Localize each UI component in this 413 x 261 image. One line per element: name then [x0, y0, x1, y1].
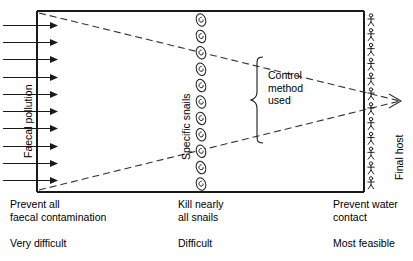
stick-figure-person-icon [368, 88, 374, 100]
stick-figure-person-icon [368, 58, 374, 70]
feasibility-most-feasible: Most feasible [333, 237, 395, 250]
stage-label-faecal-pollution: Faecal pollution [22, 84, 34, 158]
stick-figure-person-icon [368, 103, 374, 115]
method-2-line-2: all snails [178, 211, 224, 224]
stick-figure-person-icon [368, 132, 374, 144]
snail-shell-icon [194, 160, 207, 175]
snail-shell-icon [194, 62, 207, 77]
snail-shell-icon [194, 12, 207, 27]
final-host-people-group [368, 14, 374, 189]
control-method-line-1: Control [268, 69, 303, 82]
snail-shell-icon [194, 144, 207, 159]
stick-figure-person-icon [368, 162, 374, 174]
arrow-right-icon [3, 56, 58, 63]
snail-shell-icon [194, 78, 207, 93]
control-method-label: Control method used [268, 69, 303, 107]
stick-figure-person-icon [368, 29, 374, 41]
stick-figure-person-icon [368, 73, 374, 85]
arrowhead-right-icon [389, 94, 401, 108]
method-label-prevent-faecal-contamination: Prevent all faecal contamination [10, 198, 106, 223]
arrow-right-icon [3, 39, 58, 46]
diagram-root: Faecal pollution Specific snails Final h… [0, 0, 413, 261]
method-3-line-2: contact [333, 211, 398, 224]
stick-figure-person-icon [368, 43, 374, 55]
arrow-right-icon [3, 177, 58, 184]
arrow-right-icon [3, 22, 58, 29]
method-label-prevent-water-contact: Prevent water contact [333, 198, 398, 223]
arrow-right-icon [3, 160, 58, 167]
stick-figure-person-icon [368, 117, 374, 129]
control-method-line-2: method [268, 82, 303, 95]
arrow-right-icon [3, 74, 58, 81]
feasibility-very-difficult: Very difficult [10, 237, 66, 250]
method-1-line-1: Prevent all [10, 198, 106, 211]
control-method-line-3: used [268, 94, 303, 107]
stick-figure-person-icon [368, 147, 374, 159]
snail-shell-icon [194, 94, 207, 109]
method-1-line-2: faecal contamination [10, 211, 106, 224]
snail-shell-icon [194, 176, 207, 191]
method-label-kill-all-snails: Kill nearly all snails [178, 198, 224, 223]
stick-figure-person-icon [368, 177, 374, 189]
stage-label-final-host: Final host [393, 134, 405, 180]
method-3-line-1: Prevent water [333, 198, 398, 211]
feasibility-difficult: Difficult [178, 237, 212, 250]
funnel-upper-dashed-line [39, 13, 400, 101]
snail-shell-icon [194, 45, 207, 60]
stick-figure-person-icon [368, 14, 374, 26]
control-method-brace [251, 57, 263, 143]
funnel-lower-dashed-line [39, 101, 400, 190]
method-2-line-1: Kill nearly [178, 198, 224, 211]
stage-label-specific-snails: Specific snails [180, 93, 192, 160]
snail-shell-icon [194, 29, 207, 44]
specific-snails-group [194, 12, 207, 191]
snail-shell-icon [194, 127, 207, 142]
snail-shell-icon [194, 111, 207, 126]
